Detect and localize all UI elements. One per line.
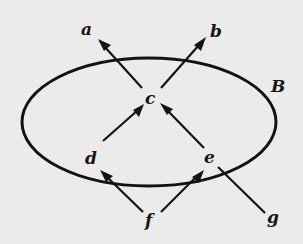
set-B-ellipse: [22, 58, 276, 186]
edge-f-to-e: [161, 170, 204, 212]
node-e-label: e: [204, 147, 215, 167]
edge-d-to-c: [103, 104, 144, 141]
node-f-label: f: [144, 210, 155, 230]
node-g-label: g: [267, 207, 279, 227]
arrowhead-icon: [133, 104, 144, 117]
diagram-canvas: a b c d e f g B: [0, 0, 303, 244]
node-c-label: c: [145, 88, 156, 108]
node-a-label: a: [81, 19, 92, 39]
edge-c-to-a: [98, 39, 142, 88]
node-b-label: b: [210, 21, 222, 41]
edge-e-to-c: [160, 103, 204, 148]
set-B-label: B: [270, 76, 285, 96]
node-d-label: d: [85, 148, 97, 168]
edge-f-to-d: [100, 170, 143, 212]
arrowhead-icon: [98, 39, 111, 51]
edge-g-to-e: [218, 167, 265, 213]
